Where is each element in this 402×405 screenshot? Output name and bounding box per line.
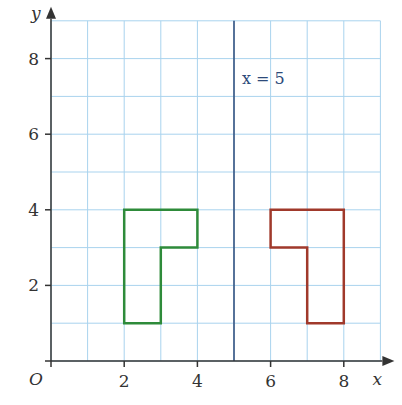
x-tick-label: 8: [338, 371, 349, 391]
x-tick-label: 2: [119, 371, 130, 391]
y-tick-label: 2: [28, 275, 39, 295]
y-tick-label: 4: [28, 200, 39, 220]
axis-labels: 24682468Oxy: [28, 3, 382, 391]
x-tick-label: 4: [192, 371, 203, 391]
y-tick-label: 8: [28, 49, 39, 69]
x-axis-label: x: [372, 369, 382, 389]
origin-label: O: [29, 369, 43, 389]
grid-lines: [51, 21, 380, 361]
y-axis-arrow-icon: [46, 7, 56, 19]
y-tick-label: 6: [28, 124, 39, 144]
x-axis-arrow-icon: [382, 356, 394, 366]
x-tick-label: 6: [265, 371, 276, 391]
coordinate-grid: x = 5 24682468Oxy: [0, 0, 402, 405]
y-axis-label: y: [30, 3, 41, 23]
mirror-line-label: x = 5: [242, 69, 285, 88]
axes: [45, 7, 394, 367]
mirror-line-x5: x = 5: [234, 21, 285, 361]
